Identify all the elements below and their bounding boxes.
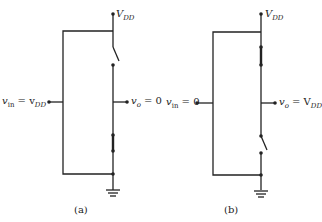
caption-b: (b) xyxy=(224,204,238,215)
vin-label-a: vin = vDD xyxy=(2,95,46,109)
vdd-label-b: VDD xyxy=(265,8,283,22)
circuit-b xyxy=(198,14,274,197)
circuit-a xyxy=(50,14,126,196)
vdd-label-a: VDD xyxy=(116,8,134,22)
vo-label-a: vo = 0 xyxy=(131,95,162,109)
vo-label-b: vo = VDD xyxy=(279,96,322,110)
caption-a: (a) xyxy=(74,204,88,215)
vin-label-b: vin = 0 xyxy=(166,96,200,110)
